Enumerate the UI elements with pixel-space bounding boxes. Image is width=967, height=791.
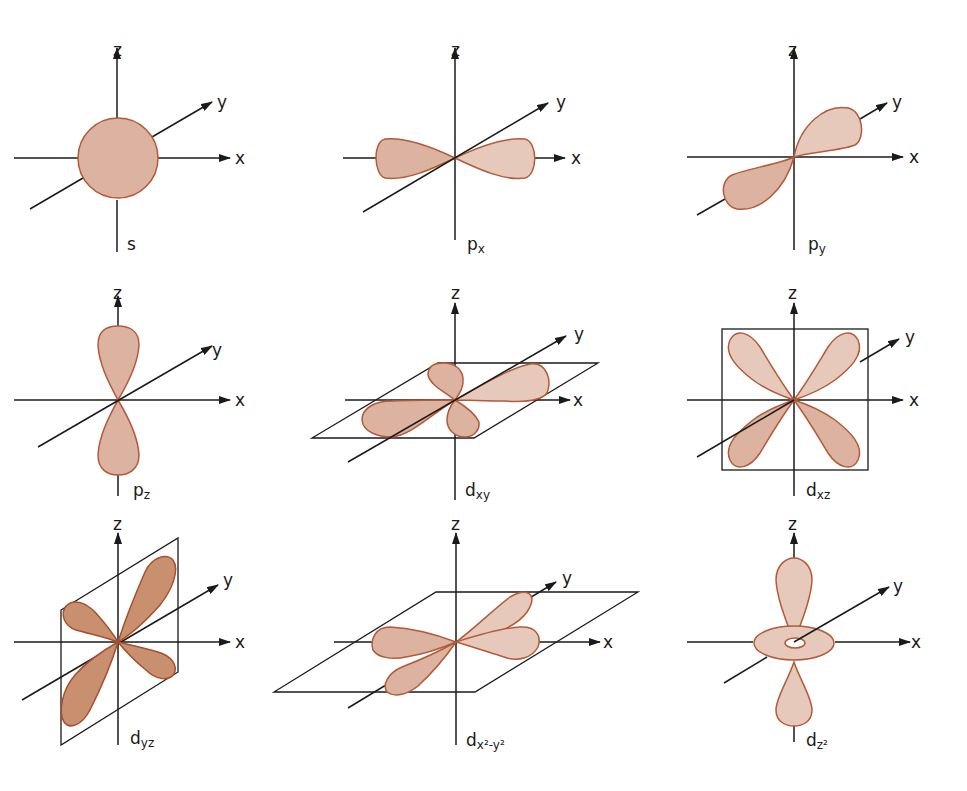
z-label: z — [451, 40, 460, 60]
s-orbital-sphere — [78, 118, 158, 198]
py-lobe-negative — [723, 157, 794, 209]
dxy-lobe-back — [428, 363, 463, 400]
x-label: x — [235, 148, 245, 168]
y-label: y — [574, 324, 584, 344]
y-axis-lower — [697, 199, 725, 215]
y-axis-lower — [724, 657, 767, 683]
x-label: x — [235, 390, 245, 410]
dyz-lobe-upper-front — [63, 602, 118, 642]
x-label: x — [909, 147, 919, 167]
pz-lobe-positive — [98, 326, 139, 400]
y-label: y — [556, 92, 566, 112]
dxz-lobe-lower-right — [794, 400, 860, 467]
px-lobe-positive — [455, 139, 535, 179]
z-label: z — [113, 283, 122, 303]
y-label: y — [905, 327, 915, 347]
y-label: y — [892, 92, 902, 112]
dz2-lobe-lower — [776, 662, 812, 726]
x-label: x — [571, 148, 581, 168]
orbital-label-dz2: dz² — [806, 730, 828, 752]
panel-dz2: z y x dz² — [687, 514, 921, 752]
panel-dxy: z y x dxy — [312, 283, 598, 502]
orbital-label-dxz: dxz — [806, 480, 830, 502]
panel-dyz: z y x dyz — [14, 514, 245, 750]
z-label: z — [113, 514, 122, 534]
z-label: z — [451, 283, 460, 303]
orbital-label-px: px — [467, 234, 485, 256]
z-label: z — [788, 283, 797, 303]
pz-lobe-negative — [98, 400, 139, 475]
py-lobe-positive — [794, 108, 862, 157]
y-axis — [860, 103, 887, 119]
panel-py: z y x py — [687, 40, 919, 256]
dxz-lobe-upper-left — [728, 333, 794, 400]
panel-dx2y2: z y x dx²-y² — [274, 514, 638, 752]
panel-px: z y x px — [343, 40, 581, 256]
dxy-lobe-left — [362, 400, 455, 437]
dz2-torus-hole — [785, 638, 805, 648]
dxz-lobe-upper-right — [794, 333, 860, 400]
dyz-lobe-lower-front — [61, 642, 118, 726]
orbital-label-s: s — [127, 234, 136, 254]
x-label: x — [235, 632, 245, 652]
z-label: z — [788, 514, 797, 534]
orbital-diagram: .ax { stroke:#1a1a1a; stroke-width:1.5; … — [0, 0, 967, 791]
z-label: z — [113, 40, 122, 60]
panel-pz: z y x pz — [14, 283, 245, 502]
orbital-label-dxy: dxy — [465, 480, 490, 502]
orbital-label-dyz: dyz — [130, 728, 154, 750]
y-label: y — [893, 576, 903, 596]
orbital-label-py: py — [808, 234, 826, 256]
x-label: x — [909, 390, 919, 410]
panel-s: z y x s — [14, 40, 245, 254]
y-axis — [152, 102, 212, 137]
dxy-lobe-right — [455, 364, 549, 402]
z-label: z — [451, 514, 460, 534]
px-lobe-negative — [376, 139, 455, 179]
x-label: x — [911, 632, 921, 652]
orbital-label-pz: pz — [133, 480, 150, 502]
z-label: z — [788, 40, 797, 60]
y-label: y — [217, 92, 227, 112]
orbital-label-dx2y2: dx²-y² — [466, 730, 505, 752]
y-label: y — [223, 570, 233, 590]
y-axis — [860, 339, 899, 362]
y-axis-lower — [30, 178, 83, 209]
dyz-lobe-lower-back — [118, 642, 175, 679]
x-label: x — [573, 390, 583, 410]
panel-dxz: z y x dxz — [687, 283, 919, 502]
y-label: y — [212, 340, 222, 360]
y-label: y — [562, 568, 572, 588]
x-label: x — [603, 632, 613, 652]
dxy-lobe-front — [447, 400, 479, 437]
